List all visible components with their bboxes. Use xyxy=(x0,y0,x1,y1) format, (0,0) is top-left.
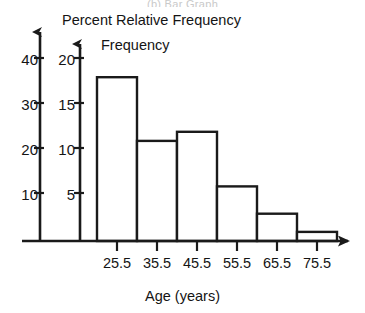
y-axis-primary-line xyxy=(74,44,84,241)
chart-canvas xyxy=(0,0,365,313)
bar xyxy=(177,132,217,241)
bar-series xyxy=(97,77,337,241)
y-axis-secondary-line xyxy=(34,32,44,241)
x-axis-line xyxy=(22,241,348,251)
bar xyxy=(257,214,297,241)
bar xyxy=(97,77,137,241)
bar-graph-figure: (b) Bar Graph Percent Relative Frequency… xyxy=(0,0,365,313)
bar xyxy=(217,186,257,241)
bar xyxy=(137,141,177,241)
bar xyxy=(297,232,337,241)
